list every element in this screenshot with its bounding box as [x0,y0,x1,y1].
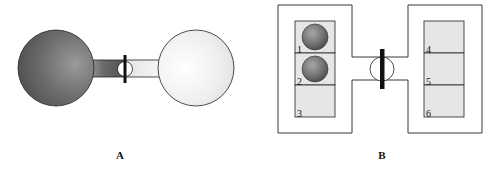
right-cell-column: 4 5 6 [424,21,464,119]
partition-valve [370,49,394,89]
diagram-canvas: A 1 2 3 4 5 6 B [0,0,492,169]
cell-label-6: 6 [426,108,431,119]
panel-b-caption: B [378,149,386,161]
cell-label-5: 5 [426,76,431,87]
particle-2 [302,56,328,82]
right-bulb-empty [158,30,234,106]
panel-a-caption: A [116,149,124,161]
cell-label-3: 3 [297,108,302,119]
panel-a: A [18,30,234,161]
cell-label-1: 1 [297,44,302,55]
left-cell-column: 1 2 3 [295,21,335,119]
cell-label-2: 2 [297,76,302,87]
stopcock-valve [118,55,133,83]
panel-b: 1 2 3 4 5 6 B [278,5,482,161]
particle-1 [302,24,328,50]
cell-label-4: 4 [426,44,431,55]
left-bulb-filled [18,30,94,106]
